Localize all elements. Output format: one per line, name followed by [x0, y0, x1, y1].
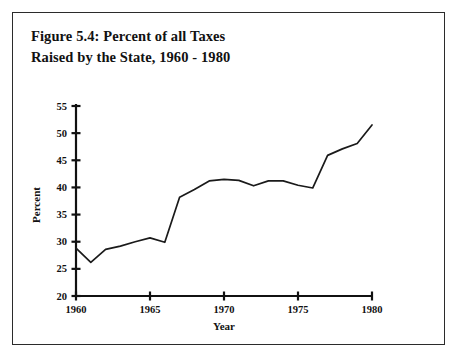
plot-area: 2025303540455055 19601965197019751980 Pe…	[0, 0, 459, 359]
y-tick-label: 20	[57, 291, 68, 302]
x-tick-label: 1960	[66, 304, 87, 315]
y-tick-label: 55	[57, 101, 68, 112]
y-tick-label: 30	[57, 236, 68, 247]
figure-container: Figure 5.4: Percent of all Taxes Raised …	[0, 0, 459, 359]
series-line	[76, 125, 372, 262]
y-tick-label: 50	[57, 128, 68, 139]
x-tick-label: 1965	[140, 304, 161, 315]
y-axis: 2025303540455055	[57, 101, 81, 302]
x-tick-label: 1975	[288, 304, 309, 315]
y-tick-label: 40	[57, 182, 68, 193]
x-axis-title: Year	[213, 320, 235, 332]
y-tick-label: 45	[57, 155, 68, 166]
y-tick-label: 35	[57, 209, 68, 220]
line-chart: 2025303540455055 19601965197019751980 Pe…	[0, 0, 459, 359]
x-axis: 19601965197019751980	[66, 292, 383, 316]
x-tick-label: 1980	[362, 304, 383, 315]
y-axis-title: Percent	[30, 187, 42, 223]
data-series	[76, 125, 372, 262]
y-tick-label: 25	[57, 263, 68, 274]
x-tick-label: 1970	[214, 304, 235, 315]
